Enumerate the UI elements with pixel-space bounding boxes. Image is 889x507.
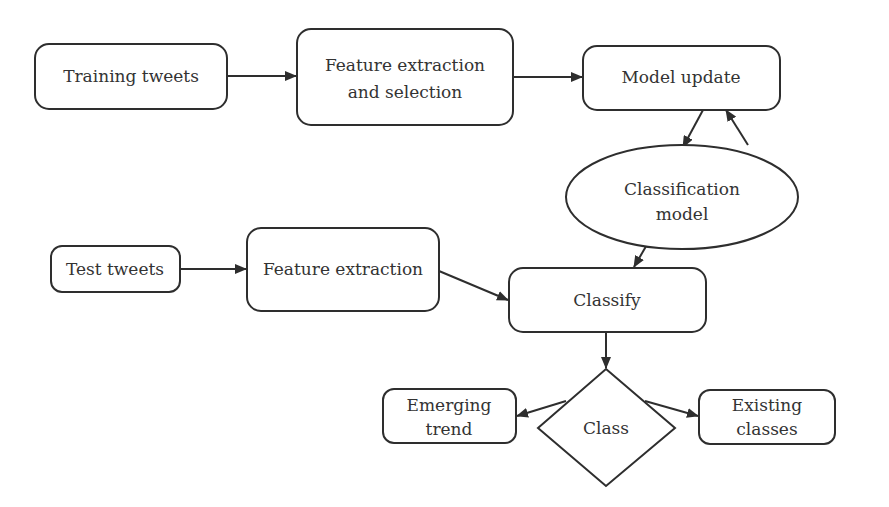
node-existing-classes: Existing classes [699,390,835,444]
node-label-line2: classes [736,419,797,439]
node-classification-model: Classification model [566,145,798,249]
node-classify: Classify [509,268,706,332]
node-label: Class [583,418,629,438]
node-label: Classify [573,290,641,310]
flowchart-diagram: Training tweets Feature extraction and s… [0,0,889,507]
edge-feature-extraction-to-classify [439,271,508,300]
node-label: Feature extraction [263,259,423,279]
edge-classification-model-to-model-update [726,110,748,145]
node-label-line2: model [656,204,709,224]
node-feature-extraction-and-selection: Feature extraction and selection [297,29,513,125]
node-model-update: Model update [583,46,780,110]
node-test-tweets: Test tweets [51,246,180,292]
node-label: Test tweets [66,259,164,279]
node-feature-extraction: Feature extraction [247,228,439,311]
node-class-decision: Class [538,369,675,486]
node-label-line1: Emerging [407,395,492,415]
node-emerging-trend: Emerging trend [383,389,516,443]
node-label-line1: Classification [624,179,740,199]
node-label-line2: and selection [348,82,463,102]
node-label-line1: Existing [732,395,802,415]
node-training-tweets: Training tweets [35,44,227,109]
node-label-line1: Feature extraction [325,55,485,75]
node-label-line2: trend [426,419,473,439]
node-label: Training tweets [63,66,199,86]
node-label: Model update [621,67,740,87]
edge-model-update-to-classification-model [683,110,703,147]
